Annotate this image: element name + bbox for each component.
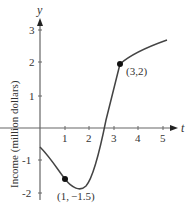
point-annotation: (1, −1.5) (57, 190, 95, 203)
y-tick-label: 1 (29, 90, 35, 102)
x-tick-label: 1 (62, 132, 68, 144)
x-tick-label: 2 (86, 132, 92, 144)
x-tick-label: 4 (135, 132, 141, 144)
y-axis-arrow-icon (37, 18, 43, 26)
data-point-marker (62, 176, 68, 182)
x-tick-label: 3 (111, 132, 117, 144)
y-axis-label: Income (million dollars) (8, 80, 21, 188)
x-axis-arrow-icon (170, 125, 178, 131)
y-tick-label: -1 (22, 154, 31, 166)
y-tick-label: -2 (22, 187, 31, 199)
y-axis-letter: y (36, 3, 43, 17)
y-tick-label: 2 (29, 56, 35, 68)
income-chart: y t 1 2 3 4 5 3 2 1 -1 -2 Income (millio… (0, 0, 190, 211)
data-point-marker (117, 61, 123, 67)
x-tick-label: 5 (160, 132, 166, 144)
income-curve (40, 40, 167, 189)
x-axis-letter: t (181, 121, 185, 135)
y-tick-label: 3 (29, 24, 35, 36)
point-annotation: (3,2) (126, 65, 147, 78)
